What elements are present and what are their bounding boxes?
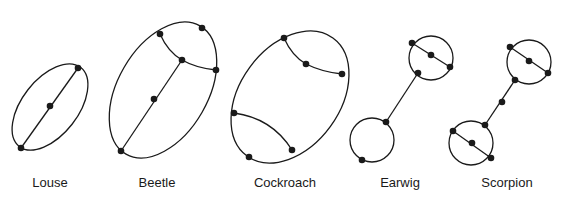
beetle-arc-2 <box>182 60 216 70</box>
node-dot <box>213 67 220 74</box>
node-dot <box>231 110 238 117</box>
beetle-axis <box>121 60 182 151</box>
node-dot <box>281 35 288 42</box>
beetle-arc-1 <box>160 34 182 60</box>
cockroach-diagram <box>207 9 374 186</box>
beetle-outline <box>87 3 239 176</box>
cockroach-arc-bottom <box>234 113 292 150</box>
node-dot <box>289 147 296 154</box>
node-dot <box>450 128 457 135</box>
node-dot <box>526 58 533 65</box>
node-dot <box>469 140 476 147</box>
label-cockroach: Cockroach <box>254 175 316 190</box>
node-dot <box>482 122 489 129</box>
diagram-canvas: Louse Beetle Cockroach Earwig Scorpion <box>0 0 562 199</box>
label-louse: Louse <box>32 175 67 190</box>
node-dot <box>157 31 164 38</box>
node-dot <box>512 77 519 84</box>
node-dot <box>415 70 422 77</box>
label-beetle: Beetle <box>139 175 176 190</box>
earwig-connector <box>386 73 418 122</box>
node-dot <box>118 148 125 155</box>
earwig-diagram <box>350 36 453 162</box>
node-dot <box>428 52 435 59</box>
node-dot <box>179 57 186 64</box>
node-dot <box>303 61 310 68</box>
cockroach-outline <box>207 9 374 186</box>
node-dot <box>507 44 514 51</box>
node-dot <box>75 65 82 72</box>
node-dot <box>246 154 253 161</box>
node-dot <box>199 25 206 32</box>
node-dots <box>18 25 552 164</box>
beetle-diagram <box>87 3 239 176</box>
node-dot <box>447 64 454 71</box>
node-dot <box>339 71 346 78</box>
node-dot <box>359 157 366 164</box>
label-scorpion: Scorpion <box>481 175 532 190</box>
node-dot <box>545 70 552 77</box>
label-earwig: Earwig <box>380 175 420 190</box>
node-dot <box>47 103 54 110</box>
node-dot <box>383 119 390 126</box>
node-dot <box>151 96 158 103</box>
node-dot <box>409 40 416 47</box>
node-dot <box>18 145 25 152</box>
node-dot <box>488 155 495 162</box>
cockroach-arc-top <box>284 38 342 74</box>
node-dot <box>499 99 506 106</box>
